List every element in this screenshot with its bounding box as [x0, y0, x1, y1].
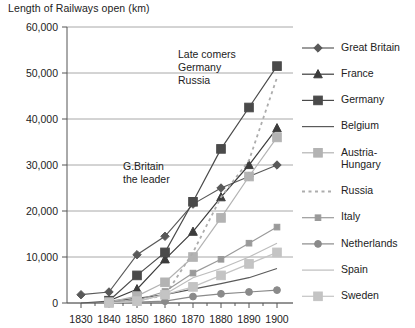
legend-label: Austria- [341, 146, 378, 158]
y-axis-tick-label: 60,000 [26, 21, 58, 33]
legend-item-italy[interactable]: Italy [302, 210, 361, 222]
legend-label: Germany [341, 93, 385, 105]
y-axis-tick-label: 50,000 [26, 67, 58, 79]
data-point-marker [105, 299, 114, 308]
data-point-marker [315, 215, 321, 221]
data-point-marker [77, 291, 85, 299]
legend-item-great-britain[interactable]: Great Britain [302, 41, 400, 53]
data-point-marker [273, 62, 282, 71]
legend-item-austria-[interactable]: Austria-Hungary [302, 146, 381, 171]
data-point-marker [273, 161, 281, 169]
data-series-group [77, 62, 282, 308]
legend-item-spain[interactable]: Spain [302, 263, 368, 275]
x-axis-labels-group: 18301840185018601870188018901900 [69, 303, 289, 325]
y-axis-tick-label: 30,000 [26, 159, 58, 171]
x-axis-tick-label: 1840 [97, 313, 121, 325]
legend-item-russia[interactable]: Russia [302, 184, 373, 196]
legend-label-continued: Hungary [341, 158, 381, 170]
chart-plot-area: 010,00020,00030,00040,00050,00060,000 18… [0, 0, 415, 328]
data-point-marker [133, 271, 142, 280]
legend-label: Great Britain [341, 41, 400, 53]
data-point-marker [274, 287, 281, 294]
legend-item-germany[interactable]: Germany [302, 93, 385, 105]
legend-item-belgium[interactable]: Belgium [302, 119, 379, 131]
railway-length-chart: Length of Railways open (km) 010,00020,0… [0, 0, 415, 328]
data-point-marker [189, 283, 198, 292]
x-axis-tick-label: 1880 [209, 313, 233, 325]
data-point-marker [161, 248, 170, 257]
data-point-marker [217, 145, 226, 154]
data-point-marker [273, 133, 282, 142]
annotations-group: Late comersGermanyRussiaG.Britainthe lea… [123, 48, 236, 185]
data-point-marker [274, 224, 280, 230]
legend-label: Belgium [341, 119, 379, 131]
x-axis-tick-label: 1850 [125, 313, 149, 325]
data-point-marker [133, 297, 142, 306]
x-axis-tick-label: 1890 [237, 313, 261, 325]
x-axis-tick-label: 1860 [153, 313, 177, 325]
data-point-marker [246, 289, 253, 296]
legend[interactable]: Great BritainFranceGermanyBelgiumAustria… [302, 41, 400, 301]
data-point-marker [218, 290, 225, 297]
data-point-marker [217, 271, 226, 280]
annotation-line: Germany [178, 61, 222, 73]
data-point-marker [161, 278, 170, 287]
data-point-marker [245, 260, 254, 269]
data-point-marker [273, 124, 282, 132]
data-point-marker [314, 44, 322, 52]
x-axis-tick-label: 1900 [265, 313, 289, 325]
data-point-marker [245, 172, 254, 181]
legend-item-sweden[interactable]: Sweden [302, 289, 379, 301]
data-point-marker [217, 184, 225, 192]
legend-item-france[interactable]: France [302, 67, 374, 79]
annotation-line: Late comers [178, 48, 236, 60]
data-point-marker [161, 290, 170, 299]
data-point-marker [218, 257, 224, 263]
y-axis-tick-label: 10,000 [26, 251, 58, 263]
y-axis-tick-label: 0 [52, 297, 58, 309]
y-axis-labels-group: 010,00020,00030,00040,00050,00060,000 [26, 21, 67, 309]
data-point-marker [315, 241, 322, 248]
data-point-marker [314, 292, 323, 301]
annotation-late-comers: Late comersGermanyRussia [178, 48, 236, 86]
y-axis-tick-label: 40,000 [26, 113, 58, 125]
series-great-britain [77, 161, 281, 299]
legend-item-netherlands[interactable]: Netherlands [302, 237, 398, 249]
data-point-marker [190, 293, 197, 300]
data-point-marker [245, 103, 254, 112]
data-point-marker [190, 270, 196, 276]
data-point-marker [246, 240, 252, 246]
data-point-marker [189, 198, 198, 207]
legend-label: Spain [341, 263, 368, 275]
annotation-line: Russia [178, 74, 210, 86]
annotation-line: the leader [123, 173, 170, 185]
data-point-marker [314, 149, 323, 158]
x-axis-tick-label: 1870 [181, 313, 205, 325]
legend-label: Netherlands [341, 237, 398, 249]
data-point-marker [273, 248, 282, 257]
legend-label: Russia [341, 184, 373, 196]
annotation-line: G.Britain [123, 160, 164, 172]
data-point-marker [217, 214, 226, 223]
legend-label: Sweden [341, 289, 379, 301]
x-axis-tick-label: 1830 [69, 313, 93, 325]
legend-label: Italy [341, 210, 361, 222]
y-axis-tick-label: 20,000 [26, 205, 58, 217]
legend-label: France [341, 67, 374, 79]
data-point-marker [314, 96, 323, 105]
series-line [81, 165, 277, 295]
annotation-gb-leader: G.Britainthe leader [123, 160, 170, 185]
